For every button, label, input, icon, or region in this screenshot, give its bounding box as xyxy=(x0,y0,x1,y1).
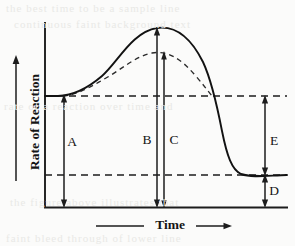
solid-reaction-curve xyxy=(45,28,287,177)
y-axis-arrowhead-icon xyxy=(13,55,20,64)
measurement-d: D xyxy=(262,174,279,208)
dashed-reaction-curve xyxy=(45,52,212,96)
measurement-d-label: D xyxy=(269,183,279,198)
reaction-rate-figure: the best time to be a sample line contin… xyxy=(0,0,295,246)
measurement-a-label: A xyxy=(67,134,77,149)
reference-lines xyxy=(45,96,287,175)
y-axis-label: Rate of Reaction xyxy=(27,74,42,170)
measurement-c: C xyxy=(161,51,178,208)
figure-canvas: Rate of Reaction A B xyxy=(0,0,295,246)
x-axis-label: Time xyxy=(155,217,185,232)
x-axis-arrowhead-icon xyxy=(224,223,233,230)
measurement-c-label: C xyxy=(169,132,178,147)
measurement-b: B xyxy=(142,27,160,208)
measurement-e-label: E xyxy=(270,133,278,148)
x-axis-title-group: Time xyxy=(96,217,232,232)
measurement-a: A xyxy=(61,94,77,208)
plot-axes xyxy=(44,22,288,208)
measurement-b-label: B xyxy=(142,132,151,147)
measurement-e: E xyxy=(262,95,278,176)
y-axis-title-group: Rate of Reaction xyxy=(13,55,42,181)
